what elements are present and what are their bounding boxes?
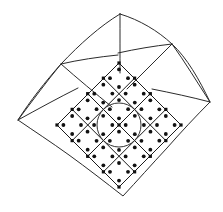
gauss-point [117, 130, 121, 134]
node-marker [164, 139, 167, 142]
gauss-point [110, 92, 114, 96]
gauss-point [101, 114, 105, 118]
gauss-point [140, 139, 144, 143]
gauss-point [149, 116, 153, 120]
node-marker [86, 92, 89, 95]
gauss-point [140, 107, 144, 111]
gauss-point [133, 146, 137, 150]
gauss-point [126, 76, 130, 80]
node-marker [102, 170, 105, 173]
figure-root [0, 0, 223, 212]
gauss-point [117, 148, 121, 152]
gauss-point [164, 114, 168, 118]
gauss-point [133, 132, 137, 136]
outer-mesh-line-6 [61, 55, 118, 64]
gauss-point [86, 130, 90, 134]
node-marker [179, 123, 182, 126]
gauss-point [117, 98, 121, 102]
node-marker [117, 61, 120, 64]
outer-mesh-line-2 [127, 44, 172, 89]
gauss-point [95, 139, 99, 143]
gauss-point [101, 132, 105, 136]
gauss-point [126, 107, 130, 111]
gauss-point [108, 139, 112, 143]
gauss-point [148, 98, 152, 102]
gauss-point [117, 85, 121, 89]
gauss-point [133, 163, 137, 167]
gauss-point [133, 114, 137, 118]
gauss-point [70, 132, 74, 136]
outer-mesh-line-3 [18, 88, 78, 120]
gauss-point [173, 123, 177, 127]
gauss-point [86, 148, 90, 152]
gauss-point [95, 107, 99, 111]
node-marker [102, 77, 105, 80]
gauss-point [142, 123, 146, 127]
gauss-point [79, 123, 83, 127]
gauss-point [108, 76, 112, 80]
gauss-point [86, 98, 90, 102]
gauss-point [110, 123, 114, 127]
node-marker [117, 185, 120, 188]
gauss-point [92, 154, 96, 158]
gauss-point [77, 139, 81, 143]
outer-boundary-path [18, 14, 210, 196]
node-markers-group [55, 61, 182, 188]
gauss-point [86, 116, 90, 120]
node-marker [149, 92, 152, 95]
node-marker [149, 155, 152, 158]
gauss-point [157, 139, 161, 143]
gauss-point [124, 155, 128, 159]
outer-mesh-line-9 [172, 44, 210, 102]
node-marker [86, 155, 89, 158]
node-marker [133, 77, 136, 80]
gauss-point [117, 161, 121, 165]
gauss-point [126, 139, 130, 143]
outer-boundary-group [18, 14, 210, 196]
outer-mesh-line-8 [18, 64, 61, 120]
gauss-point [108, 107, 112, 111]
node-marker [55, 123, 58, 126]
gauss-point [155, 123, 159, 127]
gauss-point [124, 92, 128, 96]
mesh-diagram [0, 0, 223, 212]
node-marker [133, 170, 136, 173]
gauss-point [142, 154, 146, 158]
node-marker [71, 108, 74, 111]
gauss-point [70, 114, 74, 118]
gauss-point [101, 101, 105, 105]
node-marker [164, 108, 167, 111]
outer-mesh-line-4 [152, 89, 210, 102]
outer-mesh-lines [18, 14, 210, 120]
gauss-point [108, 170, 112, 174]
gauss-point [101, 83, 105, 87]
gauss-point [148, 148, 152, 152]
node-marker [71, 139, 74, 142]
gauss-point [117, 68, 121, 72]
gauss-point [62, 123, 66, 127]
gauss-point [117, 179, 121, 183]
gauss-point [164, 132, 168, 136]
gauss-point [92, 123, 96, 127]
gauss-point [124, 123, 128, 127]
gauss-point [101, 163, 105, 167]
gauss-point [77, 107, 81, 111]
gauss-point [101, 146, 105, 150]
node-marker [117, 123, 120, 126]
gauss-point [126, 170, 130, 174]
gauss-point [133, 101, 137, 105]
gauss-point [110, 155, 114, 159]
gauss-point [117, 116, 121, 120]
gauss-point [142, 92, 146, 96]
gauss-point [92, 92, 96, 96]
gauss-point [133, 83, 137, 87]
gauss-point [149, 130, 153, 134]
gauss-point [157, 107, 161, 111]
